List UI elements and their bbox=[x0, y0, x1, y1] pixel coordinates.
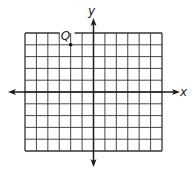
y-axis-label: y bbox=[87, 4, 96, 18]
point-q bbox=[69, 43, 73, 47]
point-label-q: Q bbox=[61, 29, 70, 43]
axes bbox=[8, 18, 180, 167]
x-axis-label: x bbox=[179, 85, 188, 99]
coordinate-plane: Q x y bbox=[0, 0, 195, 172]
